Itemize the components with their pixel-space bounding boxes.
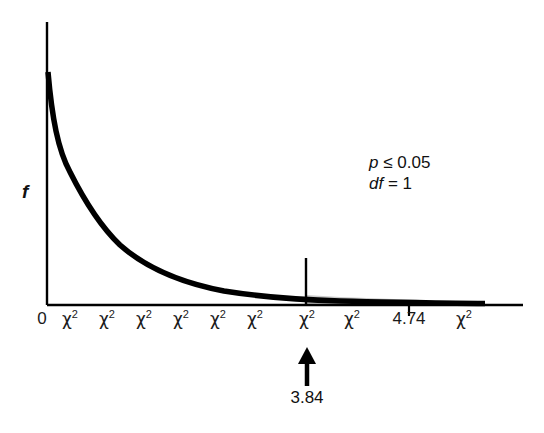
degrees-of-freedom-line: df = 1 xyxy=(369,173,430,194)
chart-canvas xyxy=(0,0,544,433)
x-axis-tick-labels: 0 χ2 χ2 χ2 χ2 χ2 χ2 χ2 χ2 4.74 χ2 xyxy=(0,309,544,335)
y-axis-label: f xyxy=(22,182,28,201)
critical-value-arrow xyxy=(298,347,316,386)
critical-value-label: 3.84 xyxy=(290,388,323,408)
x-tick-label-6: χ2 xyxy=(247,309,263,330)
x-tick-label-1: χ2 xyxy=(62,309,78,330)
x-tick-label-4: χ2 xyxy=(173,309,189,330)
x-tick-label-5: χ2 xyxy=(210,309,226,330)
x-tick-label-8: χ2 xyxy=(344,309,360,330)
x-tick-label-2: χ2 xyxy=(99,309,115,330)
significance-annotation: p ≤ 0.05 df = 1 xyxy=(369,152,430,194)
p-value-line: p ≤ 0.05 xyxy=(369,152,430,173)
x-tick-label-observed: 4.74 xyxy=(392,309,425,329)
x-tick-label-3: χ2 xyxy=(136,309,152,330)
x-tick-label-0: 0 xyxy=(37,309,46,329)
x-tick-label-7: χ2 xyxy=(299,309,315,330)
chi-square-distribution-figure: f 0 χ2 χ2 χ2 χ2 χ2 χ2 χ2 χ2 4.74 χ2 p ≤ … xyxy=(0,0,544,433)
x-tick-label-10: χ2 xyxy=(456,309,472,330)
